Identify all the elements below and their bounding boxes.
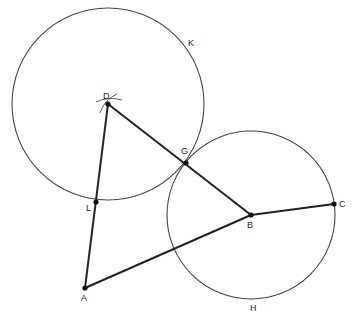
point-d (105, 101, 110, 106)
point-g (183, 160, 188, 165)
label-circle-h: H (250, 303, 257, 313)
segment-bc (251, 204, 334, 215)
point-b (248, 212, 253, 217)
segments-layer (85, 104, 334, 288)
label-a: A (81, 293, 87, 303)
label-circle-k: K (188, 38, 194, 48)
label-d: D (103, 91, 110, 101)
point-l (93, 199, 98, 204)
label-g: G (181, 146, 188, 156)
label-b: B (247, 220, 253, 230)
geometry-diagram: DGBCALKH (0, 0, 354, 321)
circles-layer (12, 8, 335, 299)
segment-db (108, 104, 251, 215)
label-c: C (339, 199, 346, 209)
point-a (82, 285, 87, 290)
points-layer (82, 101, 336, 290)
point-c (331, 201, 336, 206)
segment-ad (85, 104, 108, 288)
label-l: L (86, 203, 91, 213)
